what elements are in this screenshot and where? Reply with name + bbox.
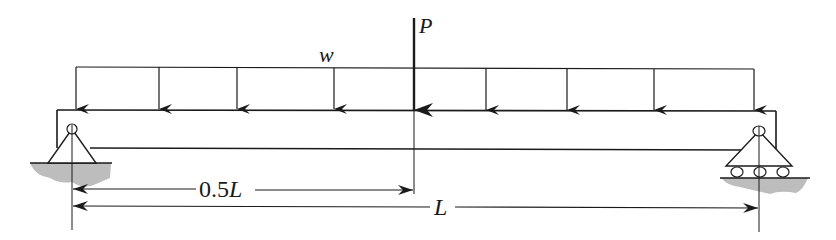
- point-load: P: [414, 13, 432, 110]
- extension-lines: [72, 110, 759, 232]
- half-span-label: 0.5L: [199, 176, 242, 202]
- dimension-span: L: [73, 194, 758, 220]
- span-label: L: [433, 194, 447, 220]
- point-load-label: P: [418, 13, 432, 38]
- beam-diagram: w P 0.5L L: [0, 0, 836, 240]
- beam: [57, 110, 776, 150]
- dimension-half-span: 0.5L: [73, 176, 413, 202]
- distributed-load-label: w: [319, 42, 334, 67]
- roller-support-icon: [720, 126, 810, 194]
- pin-support-icon: [30, 124, 112, 187]
